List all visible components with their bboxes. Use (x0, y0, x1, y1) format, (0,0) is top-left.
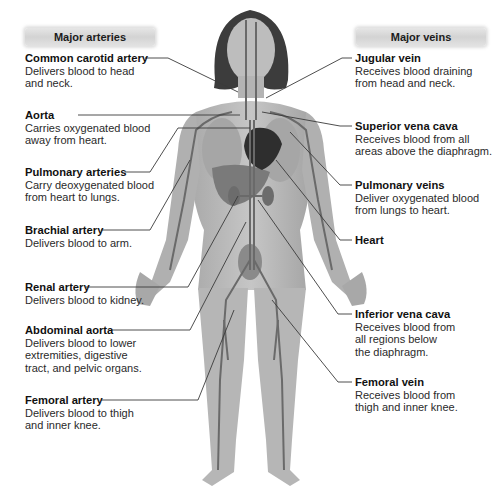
label-aorta: Aorta Carries oxygenated blood away from… (25, 109, 150, 147)
label-title: Jugular vein (355, 52, 472, 65)
label-title: Aorta (25, 109, 150, 122)
major-arteries-header: Major arteries (25, 28, 155, 46)
label-title: Femoral vein (355, 376, 458, 389)
label-title: Inferior vena cava (355, 308, 455, 321)
label-title: Abdominal aorta (25, 324, 142, 337)
label-femoral-artery: Femoral artery Delivers blood to thigh a… (25, 394, 134, 432)
label-superior-vena-cava: Superior vena cava Receives blood from a… (355, 120, 492, 158)
label-femoral-vein: Femoral vein Receives blood from thigh a… (355, 376, 458, 414)
label-title: Brachial artery (25, 224, 132, 237)
label-brachial-artery: Brachial artery Delivers blood to arm. (25, 224, 132, 249)
label-jugular-vein: Jugular vein Receives blood draining fro… (355, 52, 472, 90)
label-renal-artery: Renal artery Delivers blood to kidney. (25, 281, 144, 306)
label-title: Renal artery (25, 281, 144, 294)
major-veins-header: Major veins (356, 28, 486, 46)
label-title: Femoral artery (25, 394, 134, 407)
label-title: Pulmonary arteries (25, 166, 154, 179)
kidney-right (262, 186, 274, 206)
label-title: Heart (355, 234, 384, 247)
right-arm (302, 112, 362, 300)
label-title: Superior vena cava (355, 120, 492, 133)
right-leg (254, 288, 306, 486)
label-abdominal-aorta: Abdominal aorta Delivers blood to lower … (25, 324, 142, 374)
label-pulmonary-veins: Pulmonary veins Deliver oxygenated blood… (355, 179, 479, 217)
label-inferior-vena-cava: Inferior vena cava Receives blood from a… (355, 308, 455, 358)
head (227, 18, 275, 82)
label-heart: Heart (355, 234, 384, 247)
label-title: Pulmonary veins (355, 179, 479, 192)
label-common-carotid-artery: Common carotid artery Delivers blood to … (25, 52, 148, 90)
label-pulmonary-arteries: Pulmonary arteries Carry deoxygenated bl… (25, 166, 154, 204)
label-title: Common carotid artery (25, 52, 148, 65)
left-leg (198, 288, 248, 486)
